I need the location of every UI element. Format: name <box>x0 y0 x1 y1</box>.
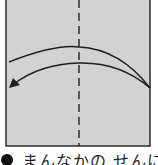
origami-diagram <box>0 0 158 150</box>
caption-text: まんなかの せんに <box>22 153 158 165</box>
caption: まんなかの せんに <box>0 153 158 165</box>
fold-illustration <box>0 0 158 150</box>
bullet-icon <box>1 154 13 165</box>
